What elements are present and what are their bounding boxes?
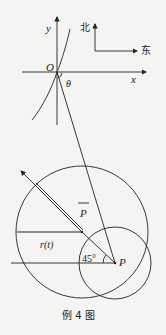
velocity-arrow-double (36, 183, 83, 230)
point-p (114, 262, 117, 265)
diagram-canvas: y x O θ 北 东 P r(t) 45° P 例 4 图 (0, 0, 166, 335)
y-label: y (45, 22, 51, 34)
p-bar-label: P (79, 207, 87, 219)
theta-label: θ (66, 78, 71, 89)
origin-label: O (46, 61, 54, 73)
x-label: x (130, 73, 136, 85)
center-point (81, 231, 83, 233)
line-o-p (57, 72, 115, 263)
east-label: 东 (141, 44, 151, 56)
p-label: P (118, 256, 126, 268)
caption: 例 4 图 (62, 309, 95, 321)
north-label: 北 (80, 22, 90, 33)
velocity-arrow (21, 171, 82, 232)
curve (32, 29, 70, 120)
radius-label: r(t) (40, 239, 54, 251)
angle-45-label: 45° (82, 253, 96, 264)
angle-45-arc (103, 255, 106, 263)
